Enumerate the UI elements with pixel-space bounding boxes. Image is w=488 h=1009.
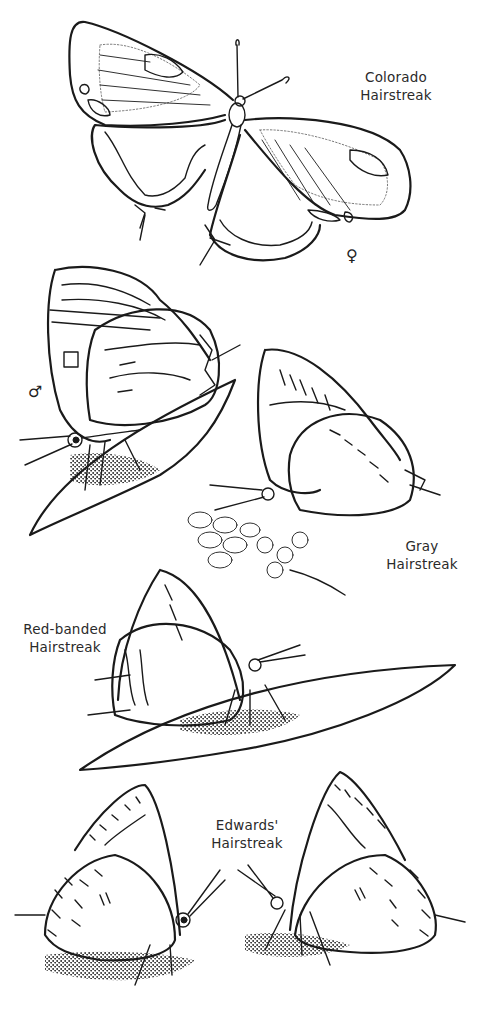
label-edwards-hairstreak: Edwards' Hairstreak [182, 816, 312, 852]
edwards-hairstreak-left-drawing [15, 785, 225, 985]
red-banded-hairstreak-drawing [80, 570, 455, 770]
female-symbol: ♀ [346, 248, 358, 264]
male-symbol: ♂ [28, 384, 42, 400]
label-line-2: Hairstreak [326, 86, 466, 104]
label-colorado-hairstreak: Colorado Hairstreak [326, 68, 466, 104]
label-line-1: Red-banded [0, 620, 130, 638]
label-line-1: Colorado [326, 68, 466, 86]
butterfly-illustration [0, 0, 488, 1009]
label-line-2: Hairstreak [358, 555, 486, 573]
label-line-2: Hairstreak [0, 638, 130, 656]
label-line-2: Hairstreak [182, 834, 312, 852]
label-line-1: Edwards' [182, 816, 312, 834]
label-red-banded-hairstreak: Red-banded Hairstreak [0, 620, 130, 656]
label-gray-hairstreak: Gray Hairstreak [358, 537, 486, 573]
colorado-hairstreak-drawing [69, 22, 410, 265]
label-line-1: Gray [358, 537, 486, 555]
colorado-hairstreak-male-drawing [20, 267, 240, 535]
edwards-hairstreak-right-drawing [238, 772, 465, 965]
